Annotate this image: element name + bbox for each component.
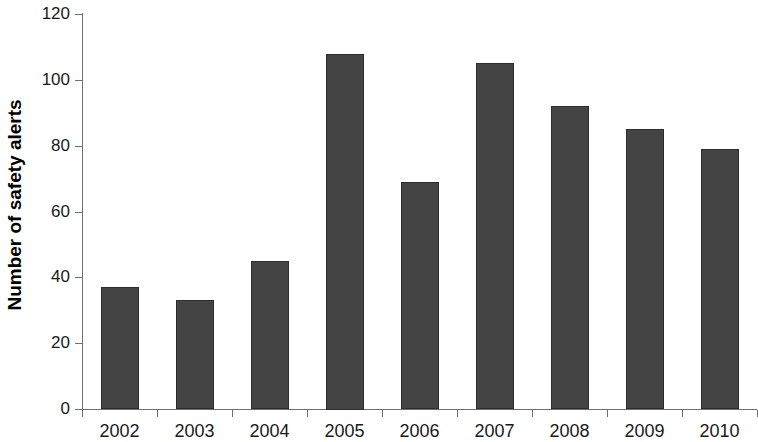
- x-axis-tick: [532, 410, 533, 417]
- bar: [551, 106, 589, 409]
- y-axis-tick: [75, 80, 82, 81]
- y-axis-tick: [75, 409, 82, 410]
- x-axis-tick-label: 2006: [382, 420, 457, 442]
- y-axis-tick-label: 120: [22, 5, 70, 22]
- y-axis-tick-label: 0: [22, 400, 70, 417]
- y-axis-tick-label-text: 120: [22, 5, 70, 22]
- bar: [101, 287, 139, 409]
- y-axis-tick-label-text: 40: [22, 268, 70, 285]
- bar: [401, 182, 439, 409]
- bar: [251, 261, 289, 409]
- y-axis-line: [82, 13, 83, 410]
- x-axis-tick-label: 2004: [232, 420, 307, 442]
- x-axis-tick: [457, 410, 458, 417]
- y-axis-tick-label-text: 60: [22, 203, 70, 220]
- y-axis-tick-label: 40: [22, 268, 70, 285]
- x-axis-line: [82, 409, 757, 410]
- x-axis-tick-label: 2007: [457, 420, 532, 442]
- x-axis-tick-label: 2002: [82, 420, 157, 442]
- y-axis-tick-label: 20: [22, 334, 70, 351]
- x-axis-tick: [682, 410, 683, 417]
- bar: [476, 63, 514, 409]
- y-axis-tick: [75, 212, 82, 213]
- bar-chart: Number of safety alerts 0204060801001202…: [0, 0, 758, 442]
- y-axis-tick: [75, 343, 82, 344]
- x-axis-tick-label: 2010: [682, 420, 757, 442]
- x-axis-tick-label: 2005: [307, 420, 382, 442]
- x-axis-tick-label: 2009: [607, 420, 682, 442]
- x-axis-tick: [382, 410, 383, 417]
- bar: [701, 149, 739, 409]
- bar: [326, 54, 364, 410]
- y-axis-tick-label-text: 100: [22, 71, 70, 88]
- y-axis-tick-label: 80: [22, 137, 70, 154]
- x-axis-tick-label: 2008: [532, 420, 607, 442]
- x-axis-tick: [232, 410, 233, 417]
- y-axis-tick: [75, 14, 82, 15]
- bar: [176, 300, 214, 409]
- y-axis-tick: [75, 146, 82, 147]
- y-axis-tick-label-text: 0: [22, 400, 70, 417]
- x-axis-tick: [157, 410, 158, 417]
- x-axis-tick: [82, 410, 83, 417]
- x-axis-tick: [607, 410, 608, 417]
- bar: [626, 129, 664, 409]
- x-axis-tick: [307, 410, 308, 417]
- y-axis-tick: [75, 277, 82, 278]
- x-axis-tick-label: 2003: [157, 420, 232, 442]
- y-axis-tick-label: 60: [22, 203, 70, 220]
- y-axis-tick-label-text: 20: [22, 334, 70, 351]
- y-axis-tick-label-text: 80: [22, 137, 70, 154]
- y-axis-tick-label: 100: [22, 71, 70, 88]
